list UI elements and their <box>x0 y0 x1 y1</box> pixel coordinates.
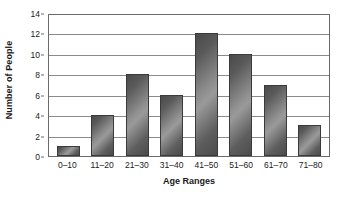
y-axis-title-label: Number of People <box>4 41 14 120</box>
bar[interactable] <box>229 54 252 156</box>
y-axis-tick-label: 12 <box>31 29 40 39</box>
bar-slot <box>293 15 328 156</box>
x-axis-title: Age Ranges <box>48 176 330 186</box>
x-axis-tick-label: 21–30 <box>120 160 155 174</box>
y-axis-tick-mark <box>41 34 44 35</box>
bar-slot <box>189 15 224 156</box>
bar-slot <box>155 15 190 156</box>
x-axis-tick-label: 0–10 <box>50 160 85 174</box>
y-axis-tick-label: 0 <box>35 152 40 162</box>
y-axis-tick-mark <box>41 157 44 158</box>
y-axis-tick-mark <box>41 14 44 15</box>
y-axis-tick-label: 4 <box>35 111 40 121</box>
bar-slot <box>120 15 155 156</box>
bar[interactable] <box>195 33 218 156</box>
y-axis-tick-label: 10 <box>31 50 40 60</box>
y-axis-tick-mark <box>41 136 44 137</box>
bar-slot <box>86 15 121 156</box>
bar[interactable] <box>91 115 114 156</box>
y-axis-tick-label: 2 <box>35 132 40 142</box>
x-axis-tick-label: 51–60 <box>224 160 259 174</box>
bar[interactable] <box>160 95 183 156</box>
y-axis-tick-mark <box>41 116 44 117</box>
x-axis-tick-label: 31–40 <box>154 160 189 174</box>
bar-slot <box>51 15 86 156</box>
y-axis-tick-mark <box>41 54 44 55</box>
bar[interactable] <box>264 85 287 157</box>
bar-slot <box>258 15 293 156</box>
bar[interactable] <box>57 146 80 156</box>
bar-chart: Number of People 14121086420 0–1011–2021… <box>0 0 349 197</box>
bar-slot <box>224 15 259 156</box>
bar[interactable] <box>126 74 149 156</box>
x-axis-tick-label: 61–70 <box>259 160 294 174</box>
y-axis-tick-mark <box>41 95 44 96</box>
bars-layer <box>49 15 329 156</box>
x-axis-tick-label: 11–20 <box>85 160 120 174</box>
y-axis-ticks: 14121086420 <box>20 14 44 157</box>
y-axis-tick-label: 8 <box>35 70 40 80</box>
plot-area <box>48 14 330 157</box>
y-axis-tick-label: 14 <box>31 9 40 19</box>
x-axis-tick-label: 71–80 <box>293 160 328 174</box>
x-axis-ticks: 0–1011–2021–3031–4041–5051–6061–7071–80 <box>48 160 330 174</box>
x-axis-tick-label: 41–50 <box>189 160 224 174</box>
y-axis-tick-label: 6 <box>35 91 40 101</box>
y-axis-tick-mark <box>41 75 44 76</box>
bar[interactable] <box>298 125 321 156</box>
y-axis-title: Number of People <box>0 0 18 160</box>
